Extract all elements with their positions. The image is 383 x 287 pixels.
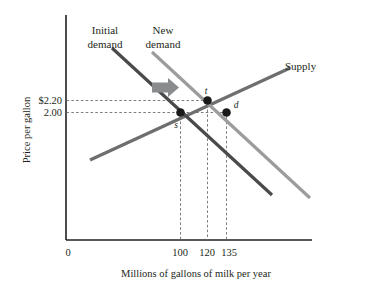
chart-canvas: s t d Initial demand New demand Supply $… <box>0 0 383 287</box>
curves-group <box>90 48 310 198</box>
initial-demand-curve <box>112 48 272 195</box>
point-label-d: d <box>234 100 239 110</box>
x-axis-title: Millions of gallons of milk per year <box>121 268 271 279</box>
y-tick-labels-group: $2.20 2.00 <box>38 95 62 118</box>
x-tick-label-120: 120 <box>199 247 215 258</box>
point-t <box>203 96 212 105</box>
supply-label: Supply <box>285 60 317 72</box>
new-demand-label-line2: demand <box>146 38 181 50</box>
initial-demand-label-line2: demand <box>88 38 123 50</box>
point-label-s: s <box>174 120 178 130</box>
supply-curve <box>90 68 290 160</box>
y-axis-title: Price per gallon <box>21 96 32 163</box>
curve-labels-group: Initial demand New demand Supply <box>88 24 317 72</box>
new-demand-label-line1: New <box>153 24 174 36</box>
guide-lines-group <box>67 100 228 240</box>
initial-demand-label-line1: Initial <box>92 24 118 36</box>
y-tick-label-220: $2.20 <box>38 95 62 106</box>
x-tick-label-100: 100 <box>172 247 188 258</box>
point-d <box>222 108 231 117</box>
demand-shift-arrow <box>152 78 179 97</box>
x-tick-label-0: 0 <box>65 247 70 258</box>
x-tick-label-135: 135 <box>221 247 237 258</box>
y-tick-label-200: 2.00 <box>44 107 62 118</box>
point-label-t: t <box>205 86 208 96</box>
x-tick-labels-group: 0 100 120 135 <box>65 247 237 258</box>
point-s <box>176 108 185 117</box>
supply-demand-figure: s t d Initial demand New demand Supply $… <box>0 0 383 287</box>
